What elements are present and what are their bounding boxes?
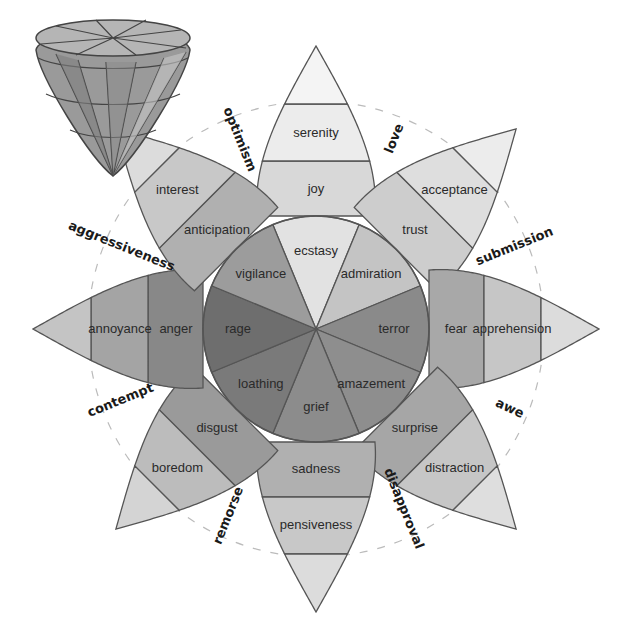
label-loathing: loathing [238, 376, 284, 391]
label-joy: joy [307, 181, 325, 196]
dyad-contempt: contempt [85, 380, 156, 420]
band-tip-joy [285, 46, 348, 104]
label-terror: terror [378, 321, 410, 336]
label-ecstasy: ecstasy [294, 243, 339, 258]
label-serenity: serenity [293, 125, 339, 140]
label-anticipation: anticipation [184, 222, 250, 237]
label-distraction: distraction [425, 460, 484, 475]
dyad-submission: submission [473, 223, 555, 268]
label-anger: anger [159, 321, 193, 336]
label-pensiveness: pensiveness [280, 517, 353, 532]
label-rage: rage [225, 321, 251, 336]
label-amazement: amazement [337, 376, 405, 391]
label-disgust: disgust [196, 420, 238, 435]
dyad-awe: awe [493, 395, 526, 421]
label-fear: fear [445, 321, 468, 336]
label-apprehension: apprehension [473, 321, 552, 336]
dyad-love: love [381, 121, 406, 155]
label-trust: trust [402, 222, 428, 237]
label-annoyance: annoyance [88, 321, 152, 336]
label-grief: grief [303, 399, 329, 414]
label-sadness: sadness [292, 461, 341, 476]
dyad-optimism: optimism [220, 105, 259, 174]
label-acceptance: acceptance [421, 182, 488, 197]
label-boredom: boredom [152, 460, 203, 475]
band-tip-anger [33, 298, 91, 361]
label-interest: interest [156, 182, 199, 197]
label-vigilance: vigilance [236, 266, 287, 281]
label-surprise: surprise [392, 420, 438, 435]
label-admiration: admiration [341, 266, 402, 281]
band-tip-sadness [285, 554, 348, 612]
emotion-wheel: ecstasyjoyserenityadmirationtrustaccepta… [0, 0, 632, 627]
